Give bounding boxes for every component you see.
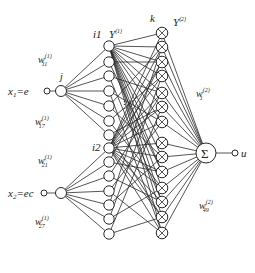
edge-layer1-layer2 [109,33,162,46]
node-j-label: j [58,71,63,82]
product-node-icon [156,41,168,53]
node-i1-label: i1 [93,28,102,40]
layer1-neuron [104,143,114,153]
product-node-icon [156,166,168,178]
weight-edge-layer1 [61,91,109,106]
output-node [232,150,238,156]
edge-layer1-layer2 [109,46,162,172]
weight-edge-layer1 [61,193,109,219]
weight-edge-layer1 [61,76,109,91]
layer1-neuron [104,186,114,196]
weight-edge-layer2 [162,93,206,153]
layer1-neuron [104,86,114,96]
layer1-neuron [104,101,114,111]
edge-layer1-layer2 [109,46,162,62]
neural-network-diagram: x1=e x2=ec j i1 Y(1) i2 k Y(2) ⋮ Σ u w(1… [0,0,255,273]
input-node [41,190,47,196]
layer1-neuron [104,200,114,210]
product-node-icon [156,27,168,39]
edge-layer1-layer2 [109,217,162,234]
layer1-neuron [104,214,114,224]
layer1-neuron [104,71,114,81]
ellipsis-dots: ⋮ [119,99,130,111]
product-node-icon [156,211,168,223]
edge-layer1-layer2 [109,46,162,122]
product-node-icon [156,151,168,163]
edge-layer1-layer2 [109,46,162,47]
node-i2-label: i2 [92,141,101,153]
product-node-icon [156,196,168,208]
input-x2-label: x2=ec [7,187,34,201]
layer1-neuron [104,130,114,140]
product-node-icon [156,56,168,68]
weight-label-w11: w(1)11 [38,53,52,67]
y1-label: Y(1) [109,28,122,40]
product-node-icon [156,116,168,128]
weight-edge-layer1 [61,91,109,121]
product-node-icon [156,87,168,99]
layer1-neuron [104,41,114,51]
weight-label-w17: w(1)17 [35,115,49,129]
product-node-icon [156,70,168,82]
weight-edge-layer1 [61,191,109,193]
input-layer-node-j [56,188,67,199]
weight-edge-layer2 [162,62,206,153]
product-node-icon [156,101,168,113]
weight-label-w21: w(1)21 [38,154,52,168]
weight-label-w49_2: w(2)49 [199,199,213,213]
weight-edge-layer1 [61,91,109,135]
layer1-neuron [104,171,114,181]
network-labels: x1=e x2=ec j i1 Y(1) i2 k Y(2) ⋮ Σ u w(1… [7,12,247,229]
output-u-label: u [241,147,247,159]
weight-edge-layer1 [61,46,109,91]
weight-label-w1_2: w(2)1 [196,87,210,101]
layer1-neuron [104,157,114,167]
weight-edge-layer1 [61,148,109,193]
layer1-neuron [104,57,114,67]
weight-edge-layer2 [162,153,206,233]
input-layer-node-j [56,86,67,97]
y2-label: Y(2) [173,16,186,28]
product-node-icon [156,182,168,194]
weight-edge-layer1 [61,162,109,193]
input-x1-label: x1=e [7,85,29,99]
weight-edge-layer1 [61,62,109,91]
product-node-icon [156,227,168,239]
input-node [44,88,50,94]
weight-edge-layer1 [61,176,109,193]
layer1-neuron [104,229,114,239]
sum-symbol: Σ [201,146,209,161]
layer1-neuron [104,116,114,126]
product-node-icon [156,137,168,149]
node-k-label: k [150,12,156,24]
weight-label-w27: w(1)27 [35,215,49,229]
